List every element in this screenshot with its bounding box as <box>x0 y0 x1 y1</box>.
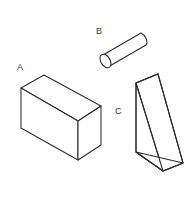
solids-canvas: A B C <box>0 0 195 211</box>
shape-triangular-prism <box>136 74 183 171</box>
shape-rectangular-box <box>21 75 101 160</box>
shape-label-b: B <box>96 26 102 36</box>
shape-label-c: C <box>115 106 122 116</box>
shape-label-a: A <box>17 62 23 72</box>
shape-cylinder <box>98 33 147 70</box>
geometric-solids-figure: A B C <box>0 0 195 211</box>
